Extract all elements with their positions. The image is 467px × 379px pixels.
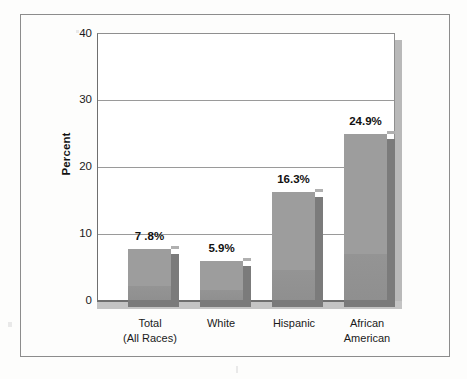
bar-chart: 40 30 20 10 0 Percent 7 .8% 5.9% 16.3% 2…	[0, 0, 467, 379]
bar-front-face	[272, 192, 315, 301]
y-tick-40: 40	[66, 27, 92, 39]
y-axis-title: Percent	[60, 133, 72, 176]
bar-top-face	[387, 131, 395, 134]
bar-base-shadow	[344, 300, 395, 307]
y-axis-ticks: 40 30 20 10 0	[62, 0, 92, 379]
bar-total-all-races	[128, 249, 171, 301]
bar-value-label-total: 7 .8%	[117, 230, 182, 242]
x-label-hispanic: Hispanic	[255, 316, 333, 331]
gridline-30	[98, 100, 394, 101]
y-tick-30: 30	[66, 93, 92, 105]
bar-white	[200, 261, 243, 301]
bar-front-face	[200, 261, 243, 301]
bar-top-face	[315, 189, 323, 192]
bar-top-face	[243, 258, 251, 261]
bar-base-shadow	[200, 300, 251, 307]
x-label-total-all-races: Total (All Races)	[110, 316, 190, 346]
x-label-african-american: African American	[328, 316, 406, 346]
x-label-line1: Total	[110, 316, 190, 331]
x-label-line2: American	[328, 331, 406, 346]
bar-front-face	[344, 134, 387, 301]
x-label-white: White	[185, 316, 257, 331]
bar-base-shadow	[272, 300, 323, 307]
bar-value-label-hispanic: 16.3%	[261, 173, 326, 185]
x-label-line1: Hispanic	[255, 316, 333, 331]
bar-value-label-white: 5.9%	[189, 242, 254, 254]
y-tick-0: 0	[66, 294, 92, 306]
bar-side-face	[387, 139, 395, 306]
x-label-line2: (All Races)	[110, 331, 190, 346]
bar-base-shadow	[128, 300, 179, 307]
x-label-line1: African	[328, 316, 406, 331]
bar-front-face	[128, 249, 171, 301]
x-label-line1: White	[185, 316, 257, 331]
bar-value-label-african-american: 24.9%	[333, 115, 398, 127]
bar-african-american	[344, 134, 387, 301]
bar-side-face	[315, 197, 323, 306]
plot-drop-shadow	[395, 40, 402, 308]
bar-top-face	[171, 246, 179, 249]
bar-hispanic	[272, 192, 315, 301]
bar-side-face	[171, 254, 179, 306]
y-tick-10: 10	[66, 227, 92, 239]
